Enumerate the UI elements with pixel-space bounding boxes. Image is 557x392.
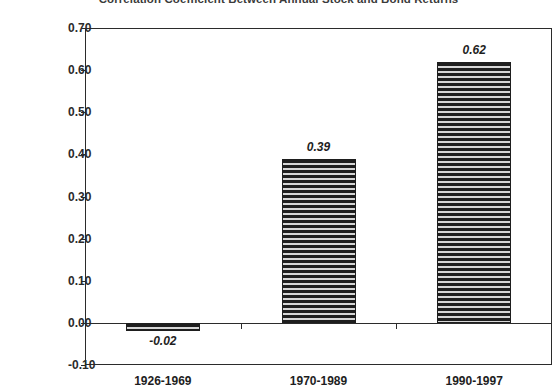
y-axis-label: 0.10: [68, 274, 73, 288]
bar: [437, 62, 511, 323]
bar-value-label: 0.39: [307, 140, 330, 154]
y-axis-label: 0.40: [68, 147, 73, 161]
x-tick-mark: [241, 323, 242, 329]
y-axis-label: 0.30: [68, 190, 73, 204]
y-axis-label: 0.20: [68, 232, 73, 246]
bar-value-label: 0.62: [462, 43, 485, 57]
y-axis-label: 0.70: [68, 21, 73, 35]
bar: [126, 323, 200, 331]
bar-value-label: -0.02: [149, 334, 176, 348]
plot-frame-right: [551, 28, 552, 365]
x-axis-line: [85, 364, 552, 365]
y-axis-label: 0.60: [68, 63, 73, 77]
x-axis-category-label: 1926-1969: [134, 374, 191, 388]
bar: [282, 159, 356, 323]
y-axis-label: 0.50: [68, 105, 73, 119]
plot-area: 0.700.600.500.400.300.200.100.00-0.10 -0…: [85, 28, 552, 365]
x-tick-mark: [396, 323, 397, 329]
y-axis-label: 0.00: [68, 316, 73, 330]
chart-title: Correlation Coefficient Between Annual S…: [0, 0, 557, 5]
plot-frame-top: [85, 28, 552, 29]
x-axis-category-label: 1970-1989: [290, 374, 347, 388]
y-axis-label: -0.10: [68, 358, 73, 372]
chart-container: Correlation Coefficient Between Annual S…: [0, 0, 557, 392]
x-axis-category-label: 1990-1997: [445, 374, 502, 388]
